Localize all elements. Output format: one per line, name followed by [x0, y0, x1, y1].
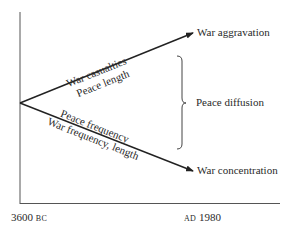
x-end-label: AD 1980 — [184, 212, 221, 223]
war-concentration-label: War concentration — [197, 165, 278, 176]
peace-diffusion-label: Peace diffusion — [196, 97, 264, 108]
x-start-era: BC — [36, 214, 47, 223]
x-end-number: 1980 — [199, 211, 221, 223]
curly-bracket — [177, 56, 186, 149]
x-start-label: 3600 BC — [11, 212, 47, 223]
x-start-number: 3600 — [11, 211, 33, 223]
war-aggravation-label: War aggravation — [197, 27, 270, 38]
x-end-era: AD — [184, 214, 196, 223]
